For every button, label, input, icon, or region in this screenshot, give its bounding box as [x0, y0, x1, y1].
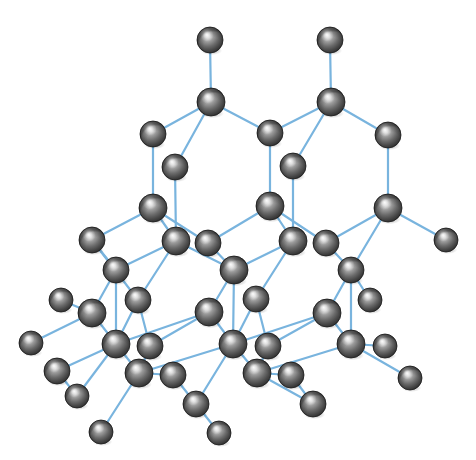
atom-sphere [373, 334, 397, 360]
atom-sphere [257, 120, 283, 148]
atom-sphere [434, 228, 458, 254]
atom-specular-highlight [137, 333, 163, 359]
atom-specular-highlight [183, 391, 209, 417]
lattice-figure [0, 0, 476, 460]
atom-specular-highlight [317, 27, 343, 53]
atom-sphere [358, 288, 382, 314]
atom-sphere [197, 27, 223, 55]
atom-specular-highlight [139, 194, 167, 222]
atom-sphere [255, 333, 281, 361]
atom-sphere [125, 359, 153, 389]
atom-specular-highlight [160, 362, 186, 388]
atom-sphere [65, 384, 89, 410]
atom-sphere [219, 330, 247, 360]
atom-specular-highlight [243, 359, 271, 387]
atom-sphere [280, 153, 306, 181]
atom-specular-highlight [373, 334, 397, 358]
atom-sphere [256, 192, 284, 222]
atom-specular-highlight [257, 120, 283, 146]
atom-sphere [317, 27, 343, 55]
atom-specular-highlight [79, 227, 105, 253]
atom-specular-highlight [256, 192, 284, 220]
atom-sphere [19, 331, 43, 357]
atom-specular-highlight [300, 391, 326, 417]
atom-specular-highlight [207, 421, 231, 445]
figure-caption [0, 448, 476, 460]
atom-specular-highlight [358, 288, 382, 312]
atom-sphere [89, 420, 113, 446]
atom-sphere [125, 287, 151, 315]
atom-specular-highlight [195, 230, 221, 256]
atom-specular-highlight [162, 154, 188, 180]
atom-specular-highlight [317, 88, 345, 116]
atom-specular-highlight [44, 358, 70, 384]
atom-specular-highlight [197, 27, 223, 53]
atom-specular-highlight [219, 330, 247, 358]
atom-sphere [374, 194, 402, 224]
atom-sphere [195, 298, 223, 328]
atom-specular-highlight [375, 122, 401, 148]
atom-sphere [317, 88, 345, 118]
atom-sphere [313, 299, 341, 329]
atom-sphere [103, 257, 129, 285]
atom-sphere [398, 366, 422, 392]
atom-specular-highlight [280, 153, 306, 179]
atom-sphere [338, 257, 364, 285]
atom-specular-highlight [19, 331, 43, 355]
atom-sphere [160, 362, 186, 390]
atom-specular-highlight [78, 299, 106, 327]
atom-specular-highlight [103, 257, 129, 283]
atom-sphere [278, 362, 304, 390]
atom-specular-highlight [313, 230, 339, 256]
atom-sphere [279, 227, 307, 257]
atom-specular-highlight [337, 330, 365, 358]
atom-specular-highlight [125, 359, 153, 387]
atom-sphere [102, 330, 130, 360]
atom-sphere [337, 330, 365, 360]
atom-specular-highlight [374, 194, 402, 222]
atom-sphere [183, 391, 209, 419]
crystal-lattice-diagram [0, 0, 476, 460]
atom-specular-highlight [162, 227, 190, 255]
atom-sphere [137, 333, 163, 361]
atom-sphere [78, 299, 106, 329]
atom-specular-highlight [243, 286, 269, 312]
atom-specular-highlight [125, 287, 151, 313]
atom-sphere [162, 154, 188, 182]
atom-specular-highlight [195, 298, 223, 326]
atom-sphere [44, 358, 70, 386]
atom-sphere [220, 256, 248, 286]
atom-sphere [243, 359, 271, 389]
atom-sphere [313, 230, 339, 258]
atom-sphere [197, 88, 225, 118]
atom-specular-highlight [255, 333, 281, 359]
atom-specular-highlight [313, 299, 341, 327]
atom-specular-highlight [434, 228, 458, 252]
atom-specular-highlight [279, 227, 307, 255]
atom-specular-highlight [49, 288, 73, 312]
atom-specular-highlight [197, 88, 225, 116]
atom-sphere [79, 227, 105, 255]
atom-sphere [243, 286, 269, 314]
atom-specular-highlight [278, 362, 304, 388]
atom-specular-highlight [102, 330, 130, 358]
atom-sphere [49, 288, 73, 314]
atom-specular-highlight [140, 121, 166, 147]
atom-sphere [375, 122, 401, 150]
atom-sphere [195, 230, 221, 258]
atom-sphere [140, 121, 166, 149]
atom-sphere [300, 391, 326, 419]
atom-specular-highlight [65, 384, 89, 408]
atom-sphere [139, 194, 167, 224]
atom-specular-highlight [398, 366, 422, 390]
atom-sphere [162, 227, 190, 257]
atom-specular-highlight [89, 420, 113, 444]
atom-sphere [207, 421, 231, 447]
atom-specular-highlight [220, 256, 248, 284]
atom-specular-highlight [338, 257, 364, 283]
